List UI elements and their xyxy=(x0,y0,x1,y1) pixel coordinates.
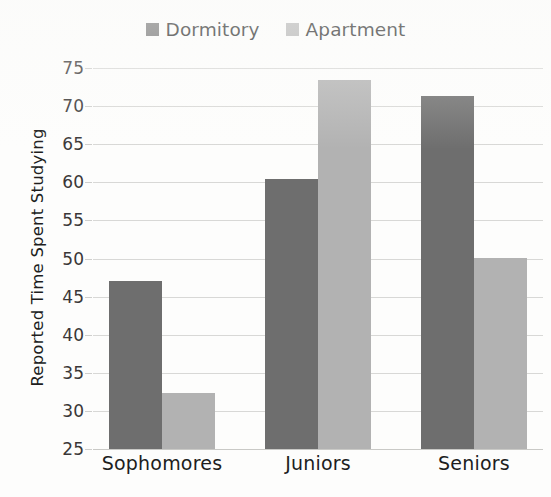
y-axis-tick-mark xyxy=(85,259,92,260)
bar-sophomores-apartment[interactable] xyxy=(162,393,215,449)
y-axis-tick-mark xyxy=(85,335,92,336)
chart-legend: DormitoryApartment xyxy=(0,16,551,42)
legend-label: Dormitory xyxy=(166,19,260,40)
legend-entry-apartment[interactable]: Apartment xyxy=(286,19,406,40)
bar-sophomores-dormitory[interactable] xyxy=(109,281,162,449)
legend-entry-dormitory[interactable]: Dormitory xyxy=(146,19,260,40)
plot-area: 2530354045505560657075 xyxy=(93,68,543,449)
bar-group-sophomores xyxy=(109,68,215,449)
y-axis-title: Reported Time Spent Studying xyxy=(28,93,47,423)
y-axis-tick-label: 30 xyxy=(62,401,84,421)
y-axis-tick-mark xyxy=(85,297,92,298)
y-axis-tick-label: 40 xyxy=(62,325,84,345)
y-axis-tick-mark xyxy=(85,144,92,145)
y-axis-tick-label: 45 xyxy=(62,287,84,307)
y-axis-tick-mark xyxy=(85,106,92,107)
gridline xyxy=(93,449,543,450)
y-axis-tick-label: 65 xyxy=(62,134,84,154)
x-axis-category-labels: SophomoresJuniorsSeniors xyxy=(93,452,543,488)
bar-chart: DormitoryApartment Reported Time Spent S… xyxy=(0,0,551,497)
x-axis-label-juniors: Juniors xyxy=(285,452,351,474)
bars-layer xyxy=(93,68,543,449)
bar-seniors-dormitory[interactable] xyxy=(421,96,474,449)
y-axis-tick-label: 55 xyxy=(62,210,84,230)
y-axis-tick-mark xyxy=(85,182,92,183)
y-axis-tick-mark xyxy=(85,220,92,221)
y-axis-tick-label: 35 xyxy=(62,363,84,383)
legend-swatch-icon xyxy=(146,23,159,36)
bar-seniors-apartment[interactable] xyxy=(474,258,527,449)
bar-juniors-dormitory[interactable] xyxy=(265,179,318,450)
bar-group-seniors xyxy=(421,68,527,449)
bar-juniors-apartment[interactable] xyxy=(318,80,371,449)
y-axis-tick-label: 25 xyxy=(62,439,84,459)
y-axis-tick-label: 60 xyxy=(62,172,84,192)
bar-group-juniors xyxy=(265,68,371,449)
y-axis-tick-label: 50 xyxy=(62,249,84,269)
y-axis-tick-mark xyxy=(85,449,92,450)
y-axis-tick-mark xyxy=(85,411,92,412)
x-axis-label-sophomores: Sophomores xyxy=(102,452,223,474)
y-axis-tick-mark xyxy=(85,373,92,374)
legend-label: Apartment xyxy=(306,19,406,40)
legend-swatch-icon xyxy=(286,23,299,36)
x-axis-label-seniors: Seniors xyxy=(438,452,510,474)
y-axis-tick-label: 70 xyxy=(62,96,84,116)
y-axis-tick-label: 75 xyxy=(62,58,84,78)
y-axis-tick-mark xyxy=(85,68,92,69)
